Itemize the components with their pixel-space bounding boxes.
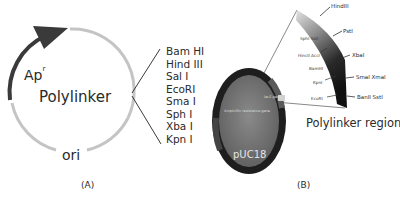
ori-label: ori [62,147,80,163]
site-label: BanII SstI [357,94,383,100]
site-label: Sma I [166,95,196,107]
leader-line-bottom [132,96,161,144]
panel-b-puc18-map: Ampicillin resistance gene lacZ gene pUC… [212,3,400,190]
site-label: BamHI [309,66,323,71]
site-label: KpnI [313,80,322,85]
site-label: HincII AccI [298,53,320,58]
site-label: PstI [343,28,353,34]
panel-b-caption: (B) [297,180,310,190]
restriction-site-list: Bam HI Hind III Sal I EcoRI Sma I Sph I … [166,45,204,145]
site-label: EcoRI [311,96,323,101]
site-label: SmaI XmaI [356,74,386,80]
figure-canvas: Apr Polylinker ori Bam HI Hind III Sal I… [0,0,400,198]
site-label: Kpn I [166,133,193,145]
polylinker-arc [296,10,347,108]
site-label: XbaI [352,52,365,58]
site-label: SphI SalI [300,36,318,41]
gene-label-ampicillin: Ampicillin resistance gene [224,109,270,113]
leader-line-top [132,49,160,93]
plasmid-ring-lower [87,118,128,150]
site-label: EcoRI [166,83,195,95]
panel-a-caption: (A) [81,180,94,190]
site-label: HindIII [331,3,349,9]
gene-label-lacz: lacZ gene [264,95,281,99]
site-label: Bam HI [166,45,204,57]
site-label: Sal I [166,70,188,82]
resistance-label: Apr [24,65,45,83]
plasmid-name: pUC18 [233,149,266,160]
polylinker-region-title: Polylinker region [306,116,400,130]
site-label: Sph I [166,108,192,120]
plasmid-ring-bottom-left [12,103,56,150]
site-label: Hind III [166,58,203,70]
panel-a-plasmid-map: Apr Polylinker ori Bam HI Hind III Sal I… [10,26,205,190]
polylinker-label: Polylinker [39,88,112,106]
site-label: Xba I [166,120,193,132]
